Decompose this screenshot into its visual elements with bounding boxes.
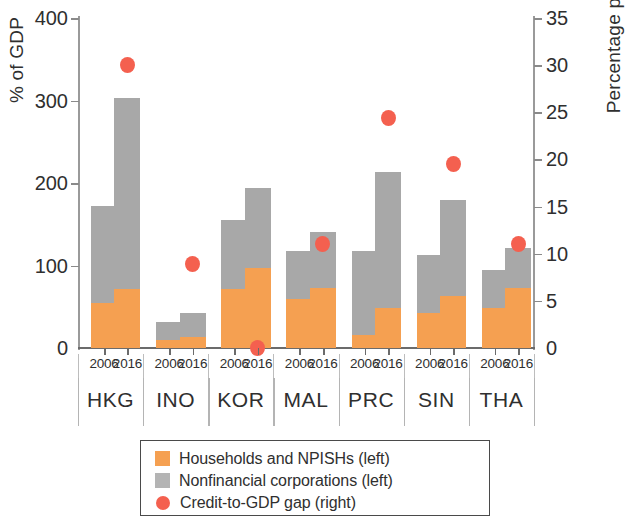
x-axis-tickmark bbox=[388, 348, 390, 355]
bar-prc-2016 bbox=[375, 172, 401, 348]
bar-segment-households bbox=[180, 337, 206, 348]
y-axis-left-tick-100: 100 bbox=[0, 256, 68, 276]
credit-gap-dot-sin-2016 bbox=[446, 156, 461, 172]
bar-segment-nonfinancial bbox=[505, 248, 531, 288]
x-axis-tickmark bbox=[193, 348, 195, 355]
group-separator bbox=[469, 378, 470, 426]
bar-segment-nonfinancial bbox=[114, 98, 140, 289]
year-separator bbox=[273, 354, 274, 378]
x-axis-group-prc: PRC bbox=[339, 388, 403, 412]
y-axis-right-tick-15: 15 bbox=[546, 197, 606, 217]
legend-item-credit-gap: Credit-to-GDP gap (right) bbox=[155, 492, 489, 513]
bar-kor-2006 bbox=[221, 220, 247, 348]
plot-area bbox=[78, 18, 534, 348]
x-axis-tickmark bbox=[430, 348, 432, 355]
y-axis-left-tick-200: 200 bbox=[0, 173, 68, 193]
legend-label-nonfinancial: Nonfinancial corporations (left) bbox=[179, 472, 393, 490]
y-axis-right-tick-35: 35 bbox=[546, 8, 606, 28]
credit-gap-dot-prc-2016 bbox=[381, 110, 396, 126]
x-axis-ticks bbox=[78, 348, 535, 355]
bar-segment-households bbox=[221, 289, 247, 348]
credit-gap-dot-hkg-2016 bbox=[120, 57, 135, 73]
year-separator bbox=[469, 354, 470, 378]
bar-segment-households bbox=[286, 299, 312, 349]
x-axis-tickmark bbox=[127, 348, 129, 355]
chart-figure: % of GDP Percentage points 4003002001000… bbox=[0, 0, 626, 521]
bar-prc-2006 bbox=[352, 251, 378, 348]
bar-segment-households bbox=[156, 340, 182, 348]
legend-label-households: Households and NPISHs (left) bbox=[179, 450, 390, 468]
y-axis-left-tickmark bbox=[71, 101, 79, 103]
x-axis-group-ino: INO bbox=[144, 388, 208, 412]
x-axis-tickmark bbox=[234, 348, 236, 355]
bar-segment-nonfinancial bbox=[417, 255, 443, 314]
x-axis-group-sin: SIN bbox=[404, 388, 468, 412]
legend-swatch-households-icon bbox=[155, 451, 170, 466]
x-axis-tickmark bbox=[453, 348, 455, 355]
x-axis-tickmark bbox=[169, 348, 171, 355]
y-axis-right-title: Percentage points bbox=[603, 0, 625, 120]
bar-tha-2016 bbox=[505, 248, 531, 348]
x-axis-group-tha: THA bbox=[469, 388, 533, 412]
y-axis-right-tick-30: 30 bbox=[546, 55, 606, 75]
bar-segment-households bbox=[114, 289, 140, 348]
y-axis-right-tick-25: 25 bbox=[546, 102, 606, 122]
bar-segment-nonfinancial bbox=[180, 313, 206, 337]
bar-segment-households bbox=[91, 303, 117, 348]
legend-label-credit-gap: Credit-to-GDP gap (right) bbox=[180, 494, 356, 512]
group-separator bbox=[404, 378, 405, 426]
bar-segment-households bbox=[505, 288, 531, 348]
bar-kor-2016 bbox=[245, 188, 271, 348]
x-axis-group-hkg: HKG bbox=[79, 388, 143, 412]
credit-gap-dot-ino-2016 bbox=[185, 256, 200, 272]
bar-tha-2006 bbox=[482, 270, 508, 348]
x-axis-group-labels: HKGINOKORMALPRCSINTHA bbox=[78, 380, 535, 426]
chart-legend: Households and NPISHs (left) Nonfinancia… bbox=[140, 440, 490, 516]
year-separator bbox=[339, 354, 340, 378]
x-axis-year-labels: 2006201620062016200620162006201620062016… bbox=[78, 356, 535, 380]
legend-item-nonfinancial: Nonfinancial corporations (left) bbox=[155, 470, 489, 491]
group-separator bbox=[534, 378, 535, 426]
legend-item-households: Households and NPISHs (left) bbox=[155, 448, 489, 469]
year-separator bbox=[208, 354, 209, 378]
bar-segment-nonfinancial bbox=[352, 251, 378, 335]
y-axis-right-tickmark bbox=[534, 254, 542, 256]
x-axis-group-kor: KOR bbox=[209, 388, 273, 412]
bar-segment-households bbox=[417, 313, 443, 348]
bar-segment-nonfinancial bbox=[245, 188, 271, 268]
bar-segment-households bbox=[352, 335, 378, 348]
x-axis-tickmark bbox=[495, 348, 497, 355]
y-axis-left-tickmark bbox=[71, 18, 79, 20]
group-separator bbox=[339, 378, 340, 426]
bar-segment-households bbox=[440, 296, 466, 348]
y-axis-left-tick-0: 0 bbox=[0, 338, 68, 358]
x-axis-group-mal: MAL bbox=[274, 388, 338, 412]
y-axis-left-tickmark bbox=[71, 183, 79, 185]
bar-segment-nonfinancial bbox=[91, 206, 117, 303]
y-axis-right-tickmark bbox=[534, 301, 542, 303]
bar-hkg-2016 bbox=[114, 98, 140, 348]
credit-gap-dot-tha-2016 bbox=[511, 236, 526, 252]
x-axis-tickmark bbox=[518, 348, 520, 355]
bar-segment-households bbox=[310, 288, 336, 348]
x-axis-tickmark bbox=[299, 348, 301, 355]
y-axis-right-tickmark bbox=[534, 207, 542, 209]
bar-segment-nonfinancial bbox=[286, 251, 312, 298]
y-axis-right-tickmark bbox=[534, 112, 542, 114]
group-separator bbox=[208, 378, 209, 426]
bar-sin-2016 bbox=[440, 200, 466, 348]
x-axis-tickmark bbox=[365, 348, 367, 355]
group-separator bbox=[273, 378, 274, 426]
year-separator bbox=[534, 354, 535, 378]
bar-segment-nonfinancial bbox=[482, 270, 508, 308]
legend-swatch-nonfinancial-icon bbox=[155, 473, 170, 488]
bar-hkg-2006 bbox=[91, 206, 117, 348]
bar-mal-2006 bbox=[286, 251, 312, 348]
y-axis-right-tickmark bbox=[534, 159, 542, 161]
bar-ino-2016 bbox=[180, 313, 206, 348]
bar-segment-households bbox=[245, 268, 271, 348]
year-separator bbox=[78, 354, 79, 378]
y-axis-right-tickmark bbox=[534, 18, 542, 20]
x-axis-tickmark bbox=[258, 348, 260, 355]
year-separator bbox=[404, 354, 405, 378]
